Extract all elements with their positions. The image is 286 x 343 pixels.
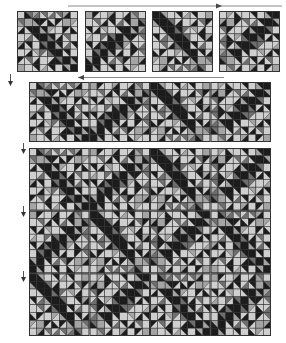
arrow-down-4-icon xyxy=(20,271,27,282)
arrow-down-3-icon xyxy=(20,206,27,217)
quilt-block-4 xyxy=(219,11,280,72)
quilt-block-2 xyxy=(85,11,146,72)
arrow-down-1-icon xyxy=(7,74,14,86)
quilt-block-3 xyxy=(152,11,213,72)
arrow-down-2-icon xyxy=(20,143,27,154)
arrow-top-right-icon xyxy=(66,2,284,10)
quilt-strip xyxy=(29,82,271,142)
arrow-return-left-icon xyxy=(76,74,226,81)
quilt-block-1 xyxy=(17,11,78,72)
quilt-assembled xyxy=(29,148,271,336)
